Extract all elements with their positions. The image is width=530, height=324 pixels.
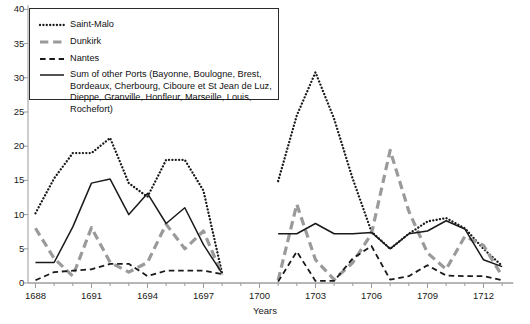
legend-line-icon	[38, 36, 66, 48]
y-axis-tick-label: 15	[0, 174, 24, 185]
y-axis-tick-label: 0	[0, 277, 24, 288]
series-line-dunkirk-seg1	[278, 150, 502, 280]
series-line-sum-of-other-ports-seg0	[35, 179, 222, 273]
y-axis-tick-label: 25	[0, 106, 24, 117]
legend-label: Sum of other Ports (Bayonne, Boulogne, B…	[70, 69, 278, 115]
series-line-saint-malo-seg0	[35, 138, 222, 273]
x-axis-tick-label: 1700	[239, 290, 279, 301]
y-axis-tick-label: 20	[0, 140, 24, 151]
legend-line-icon	[38, 53, 66, 65]
legend-label: Nantes	[70, 53, 99, 65]
x-axis-tick-label: 1706	[351, 290, 391, 301]
x-axis-tick-label: 1688	[15, 290, 55, 301]
legend-item[interactable]: Saint-Malo	[38, 19, 114, 31]
y-axis-tick-label: 5	[0, 243, 24, 254]
legend: Saint-MaloDunkirkNantesSum of other Port…	[29, 8, 279, 100]
legend-item[interactable]: Nantes	[38, 53, 99, 65]
x-axis-tick-label: 1694	[127, 290, 167, 301]
line-chart: 0510152025303540 16881691169416971700170…	[0, 0, 530, 324]
series-line-saint-malo-seg1	[278, 72, 502, 266]
y-axis-tick-label: 35	[0, 38, 24, 49]
x-axis-tick-label: 1703	[295, 290, 335, 301]
legend-label: Dunkirk	[70, 36, 101, 48]
y-axis-tick-label: 10	[0, 209, 24, 220]
legend-label: Saint-Malo	[70, 19, 114, 31]
x-axis-tick-label: 1709	[407, 290, 447, 301]
x-axis-tick-label: 1691	[71, 290, 111, 301]
series-line-nantes-seg1	[278, 246, 502, 282]
legend-item[interactable]: Sum of other Ports (Bayonne, Boulogne, B…	[38, 69, 278, 115]
legend-line-icon	[38, 69, 66, 81]
x-axis-tick-label: 1697	[183, 290, 223, 301]
legend-line-icon	[38, 19, 66, 31]
x-axis-title: Years	[0, 305, 530, 316]
legend-item[interactable]: Dunkirk	[38, 36, 101, 48]
series-line-dunkirk-seg0	[35, 224, 222, 276]
y-axis-tick-label: 30	[0, 72, 24, 83]
x-axis-tick-label: 1712	[463, 290, 503, 301]
y-axis-tick-label: 40	[0, 3, 24, 14]
